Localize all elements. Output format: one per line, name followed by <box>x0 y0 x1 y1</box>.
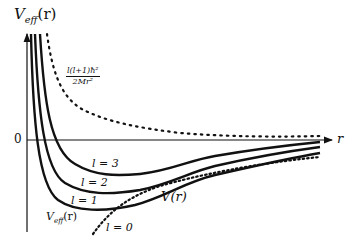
veff-curve-label: Veff(r) <box>46 210 77 225</box>
potential-label: V(r) <box>161 189 187 204</box>
y-axis-label: Veff(r) <box>14 5 56 25</box>
curve-l2 <box>35 34 320 193</box>
curve-l1 <box>31 34 320 210</box>
origin-label: 0 <box>14 132 22 146</box>
centrifugal-term-label: l(l+1)ħ² 2Mr² <box>66 66 100 87</box>
label-l2: l = 2 <box>81 176 108 189</box>
label-l0: l = 0 <box>106 221 133 234</box>
label-l3: l = 3 <box>92 157 119 170</box>
x-axis-label: r <box>337 131 343 146</box>
label-l1: l = 1 <box>71 194 98 207</box>
